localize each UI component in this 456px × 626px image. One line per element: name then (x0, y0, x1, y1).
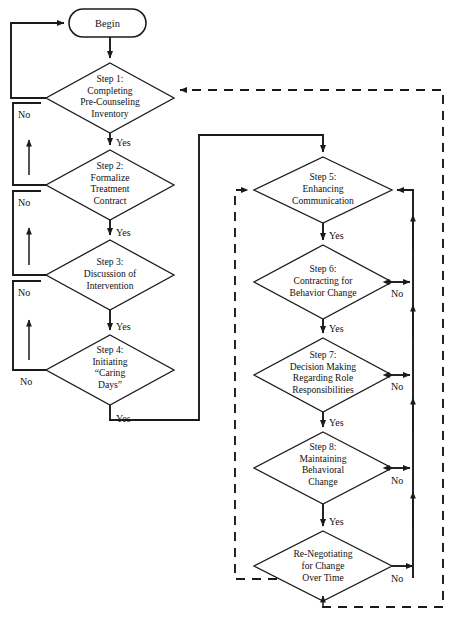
label-step2-no: No (18, 197, 30, 208)
node-step2-line-1: Step 2: (97, 160, 124, 171)
node-step2-line-4: Contract (93, 195, 126, 206)
label-step3-no: No (18, 287, 30, 298)
node-step5-line-2: Enhancing (302, 183, 343, 194)
node-step5-line-3: Communication (292, 195, 354, 206)
label-step4-no: No (20, 376, 32, 387)
node-step7-line-2: Decision Making (290, 361, 357, 372)
label-step1-no: No (18, 109, 30, 120)
label-step7-no: No (391, 381, 403, 392)
node-begin: Begin (69, 9, 146, 37)
node-step7-line-1: Step 7: (310, 349, 337, 360)
node-step7: Step 7: Decision Making Regarding Role R… (254, 338, 392, 412)
label-renegotiating-no: No (391, 573, 403, 584)
node-step6: Step 6: Contracting for Behavior Change (254, 245, 392, 319)
node-step4-line-2: Initiating (92, 356, 127, 367)
edge-dashed-bottom-run (323, 606, 443, 607)
node-step6-line-2: Contracting for (294, 275, 354, 286)
edge-step1-no-to-begin (11, 23, 64, 98)
node-step8-line-3: Behavioral (302, 464, 344, 475)
label-step6-yes: Yes (329, 323, 344, 334)
label-step8-yes: Yes (329, 516, 344, 527)
node-step4: Step 4: Initiating “Caring Days” (46, 335, 174, 405)
label-step3-yes: Yes (116, 321, 131, 332)
label-step1-yes: Yes (116, 137, 131, 148)
node-step3-line-2: Discussion of (84, 268, 137, 279)
node-renegotiating-line-2: for Change (302, 560, 345, 571)
node-step7-line-4: Responsibilities (292, 384, 354, 395)
node-step1-line-2: Completing (87, 85, 133, 96)
node-step8-line-4: Change (308, 476, 337, 487)
node-step5-line-1: Step 5: (310, 171, 337, 182)
label-step7-yes: Yes (329, 417, 344, 428)
node-step5: Step 5: Enhancing Communication (254, 157, 392, 223)
node-step7-line-3: Regarding Role (293, 372, 353, 383)
node-step1-line-4: Inventory (91, 108, 129, 119)
node-renegotiating-line-3: Over Time (302, 572, 343, 583)
node-step8: Step 8: Maintaining Behavioral Change (254, 432, 392, 504)
node-step6-line-1: Step 6: (310, 263, 337, 274)
flowchart-svg: Begin Step 1: Completing Pre-Counseling … (0, 0, 456, 626)
flowchart-canvas: Begin Step 1: Completing Pre-Counseling … (0, 0, 456, 626)
node-step2: Step 2: Formalize Treatment Contract (46, 150, 174, 220)
node-renegotiating-line-1: Re-Negotiating (293, 548, 352, 559)
node-step2-line-2: Formalize (91, 172, 130, 183)
label-step8-no: No (391, 475, 403, 486)
node-begin-label: Begin (95, 18, 121, 29)
node-step3: Step 3: Discussion of Intervention (46, 240, 174, 310)
node-step4-line-3: “Caring (95, 367, 126, 378)
node-step4-line-1: Step 4: (97, 344, 124, 355)
node-step3-line-3: Intervention (87, 280, 134, 291)
label-step2-yes: Yes (116, 227, 131, 238)
node-step4-line-4: Days” (98, 379, 122, 390)
label-step4-yes: Yes (116, 413, 131, 424)
node-step8-line-2: Maintaining (300, 453, 347, 464)
label-step6-no: No (391, 288, 403, 299)
node-step8-line-1: Step 8: (310, 441, 337, 452)
node-renegotiating: Re-Negotiating for Change Over Time (254, 531, 392, 601)
node-step1-line-1: Step 1: (97, 73, 124, 84)
node-step3-line-1: Step 3: (97, 256, 124, 267)
node-step1: Step 1: Completing Pre-Counseling Invent… (46, 63, 174, 133)
node-step6-line-3: Behavior Change (290, 287, 357, 298)
label-step5-yes: Yes (329, 230, 344, 241)
node-step1-line-3: Pre-Counseling (80, 96, 140, 107)
node-step2-line-3: Treatment (90, 183, 129, 194)
